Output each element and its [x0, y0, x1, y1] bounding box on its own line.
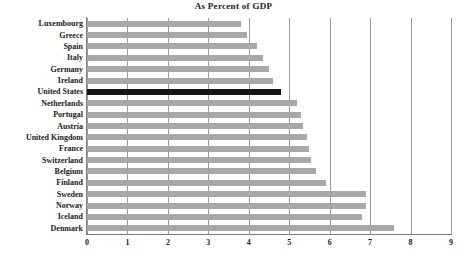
bar — [87, 134, 307, 140]
category-label: Netherlands — [0, 100, 83, 108]
x-tick-label-9: 9 — [441, 238, 461, 247]
category-label: Sweden — [0, 191, 83, 199]
x-tick-label-5: 5 — [279, 238, 299, 247]
category-label: Spain — [0, 43, 83, 51]
category-label: Iceland — [0, 213, 83, 221]
bar — [87, 78, 273, 84]
x-tick-label-0: 0 — [77, 238, 97, 247]
x-tick-label-6: 6 — [320, 238, 340, 247]
bar — [87, 55, 263, 61]
x-tick-label-7: 7 — [360, 238, 380, 247]
bar — [87, 43, 257, 49]
category-label: Norway — [0, 202, 83, 210]
category-label: Switzerland — [0, 157, 83, 165]
bar — [87, 66, 269, 72]
category-label: Greece — [0, 32, 83, 40]
category-label: United Kingdom — [0, 134, 83, 142]
x-axis-line — [86, 234, 452, 235]
bar — [87, 112, 301, 118]
bar — [87, 191, 366, 197]
category-label: Italy — [0, 54, 83, 62]
category-label: Ireland — [0, 77, 83, 85]
x-tick-label-3: 3 — [198, 238, 218, 247]
bar — [87, 89, 281, 95]
category-label: Finland — [0, 179, 83, 187]
bar — [87, 225, 394, 231]
gridline-8 — [411, 18, 412, 234]
chart-title: As Percent of GDP — [0, 1, 467, 11]
bar — [87, 203, 366, 209]
category-label: France — [0, 145, 83, 153]
bar — [87, 180, 326, 186]
category-label: Luxembourg — [0, 20, 83, 28]
bar — [87, 32, 247, 38]
x-tick-label-8: 8 — [401, 238, 421, 247]
category-label: Germany — [0, 66, 83, 74]
bar-chart: As Percent of GDP LuxembourgGreeceSpainI… — [0, 0, 467, 265]
plot-area — [87, 18, 451, 234]
x-tick-label-1: 1 — [117, 238, 137, 247]
bar — [87, 214, 362, 220]
bar — [87, 146, 309, 152]
bar — [87, 100, 297, 106]
bar — [87, 123, 303, 129]
bar — [87, 157, 311, 163]
x-tick-label-2: 2 — [158, 238, 178, 247]
bar — [87, 21, 241, 27]
category-label: Denmark — [0, 225, 83, 233]
bar — [87, 168, 316, 174]
category-label: Austria — [0, 123, 83, 131]
category-axis-labels: LuxembourgGreeceSpainItalyGermanyIreland… — [0, 18, 83, 234]
category-label: United States — [0, 88, 83, 96]
x-tick-label-4: 4 — [239, 238, 259, 247]
category-label: Belgium — [0, 168, 83, 176]
gridline-7 — [370, 18, 371, 234]
category-label: Portugal — [0, 111, 83, 119]
gridline-9 — [451, 18, 452, 234]
